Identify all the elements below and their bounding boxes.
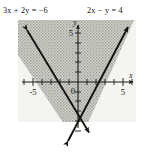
equation-label-right: 2x − y = 4 xyxy=(87,6,123,16)
coordinate-plane: -5 5 0 5 y x xyxy=(0,0,151,153)
equation-label-left: 3x + 2y = −6 xyxy=(3,6,48,16)
x-axis-label: x xyxy=(128,71,133,80)
graph-figure: 3x + 2y = −6 2x − y = 4 xyxy=(0,0,151,153)
y-tick-label-5: 5 xyxy=(69,28,73,38)
y-axis-label: y xyxy=(72,18,77,27)
x-tick-label-5: 5 xyxy=(121,87,125,97)
origin-label: 0 xyxy=(71,86,75,96)
x-tick-label-neg5: -5 xyxy=(29,87,36,97)
